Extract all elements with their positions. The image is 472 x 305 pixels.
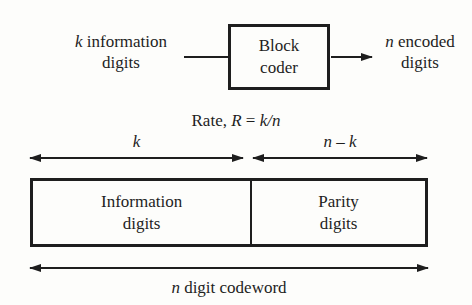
information-digits-cell: Information digits <box>33 181 250 244</box>
input-digits-line1: k information <box>58 31 184 52</box>
n-variable: n <box>385 32 394 51</box>
nk-extent-arrow <box>253 157 427 159</box>
k-variable: k <box>75 32 83 51</box>
rate-label: Rate, R = k/n <box>0 110 472 131</box>
n-variable-bottom: n <box>171 278 180 297</box>
output-digits-line2: digits <box>372 52 468 73</box>
input-connector-line <box>184 56 228 58</box>
codeword-label: n digit codeword <box>30 277 428 298</box>
k-over-n-expression: k/n <box>260 111 281 130</box>
output-digits-label: n encoded digits <box>372 31 468 73</box>
codeword-box: Information digits Parity digits <box>30 178 428 247</box>
k-extent-arrow <box>30 157 243 159</box>
parity-digits-line2: digits <box>320 213 358 235</box>
block-coder-figure: k information digits Block coder n encod… <box>0 0 472 305</box>
parity-digits-line1: Parity <box>318 191 359 213</box>
nk-extent-label: n – k <box>253 131 427 152</box>
k-extent-label: k <box>30 131 243 152</box>
input-digits-label: k information digits <box>58 31 184 73</box>
parity-digits-cell: Parity digits <box>252 181 425 244</box>
block-coder-line1: Block <box>259 35 300 57</box>
output-arrow <box>331 56 372 58</box>
information-digits-line1: Information <box>101 191 182 213</box>
block-coder-line2: coder <box>260 57 298 79</box>
block-coder-box: Block coder <box>228 24 330 90</box>
output-digits-line1: n encoded <box>372 31 468 52</box>
R-variable: R <box>231 111 241 130</box>
codeword-extent-arrow <box>30 267 428 269</box>
input-digits-line2: digits <box>58 52 184 73</box>
information-digits-line2: digits <box>123 213 161 235</box>
